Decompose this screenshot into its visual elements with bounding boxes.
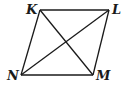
vertex-label-n: N [7,69,19,82]
vertex-label-k: K [26,3,37,16]
diagonal-km [40,10,93,75]
side-nk [21,10,40,75]
vertex-label-m: M [96,69,110,82]
vertex-label-l: L [112,3,121,16]
